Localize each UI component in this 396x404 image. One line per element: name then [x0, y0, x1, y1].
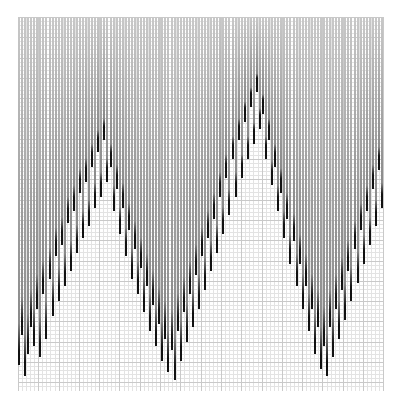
- bar: [134, 17, 136, 249]
- bar: [308, 17, 310, 331]
- bar: [262, 17, 264, 114]
- bar: [247, 17, 249, 159]
- bar: [225, 17, 227, 178]
- bar: [344, 17, 346, 320]
- bar: [341, 17, 343, 290]
- bar: [265, 17, 267, 159]
- bar: [171, 17, 173, 350]
- bar: [232, 17, 234, 159]
- bar: [204, 17, 206, 290]
- bar: [213, 17, 215, 219]
- bar: [369, 17, 371, 245]
- bar: [125, 17, 127, 256]
- bar: [91, 17, 93, 167]
- bar: [55, 17, 57, 256]
- bar: [289, 17, 291, 264]
- bar: [180, 17, 182, 361]
- bar: [366, 17, 368, 211]
- bar: [131, 17, 133, 279]
- bar: [323, 17, 325, 346]
- bar: [268, 17, 270, 140]
- bar: [122, 17, 124, 208]
- bar: [73, 17, 75, 211]
- bar: [280, 17, 282, 193]
- bar: [299, 17, 301, 264]
- bar: [354, 17, 356, 249]
- bar: [250, 17, 252, 107]
- bar: [155, 17, 157, 346]
- bar: [256, 17, 258, 92]
- bar: [119, 17, 121, 234]
- bar: [195, 17, 197, 275]
- bar: [326, 17, 328, 376]
- bar: [201, 17, 203, 256]
- bar: [39, 17, 41, 357]
- bar: [52, 17, 54, 316]
- bar: [100, 17, 102, 197]
- bar: [82, 17, 84, 238]
- bar: [85, 17, 87, 182]
- bar: [216, 17, 218, 253]
- bar: [116, 17, 118, 189]
- bar: [167, 17, 169, 372]
- bar: [296, 17, 298, 286]
- bar: [241, 17, 243, 178]
- bar: [33, 17, 35, 346]
- bar: [76, 17, 78, 253]
- bar: [274, 17, 276, 167]
- bar: [363, 17, 365, 264]
- bar: [36, 17, 38, 309]
- bar: [94, 17, 96, 208]
- bar: [183, 17, 185, 312]
- bar: [311, 17, 313, 309]
- bar: [210, 17, 212, 271]
- bar: [320, 17, 322, 369]
- bar: [58, 17, 60, 301]
- bar: [189, 17, 191, 294]
- bar: [357, 17, 359, 283]
- bar: [177, 17, 179, 331]
- bar: [302, 17, 304, 309]
- bar: [149, 17, 151, 331]
- bar: [360, 17, 362, 230]
- bar: [329, 17, 331, 327]
- bar: [381, 17, 383, 208]
- bar: [314, 17, 316, 354]
- bar: [228, 17, 230, 215]
- bar: [347, 17, 349, 271]
- bar: [174, 17, 176, 380]
- bar: [113, 17, 115, 211]
- bar: [286, 17, 288, 219]
- bar: [146, 17, 148, 286]
- bar: [152, 17, 154, 305]
- bar: [49, 17, 51, 279]
- bar: [238, 17, 240, 140]
- bar: [97, 17, 99, 152]
- bar: [293, 17, 295, 241]
- chart-figure: [0, 0, 396, 404]
- bar: [140, 17, 142, 268]
- bar: [350, 17, 352, 301]
- bar: [70, 17, 72, 271]
- bar: [18, 17, 20, 365]
- bar: [27, 17, 29, 354]
- bar: [110, 17, 112, 167]
- bar: [244, 17, 246, 122]
- bar: [106, 17, 108, 182]
- bar: [61, 17, 63, 245]
- bar: [103, 17, 105, 140]
- bar: [235, 17, 237, 197]
- bar: [277, 17, 279, 211]
- bar: [305, 17, 307, 286]
- bar: [161, 17, 163, 361]
- bar: [42, 17, 44, 294]
- bar: [375, 17, 377, 226]
- bar: [30, 17, 32, 327]
- bar: [137, 17, 139, 294]
- bar: [67, 17, 69, 223]
- bar: [378, 17, 380, 170]
- bar: [207, 17, 209, 238]
- bar-series: [18, 17, 384, 391]
- bar: [259, 17, 261, 129]
- bar: [64, 17, 66, 286]
